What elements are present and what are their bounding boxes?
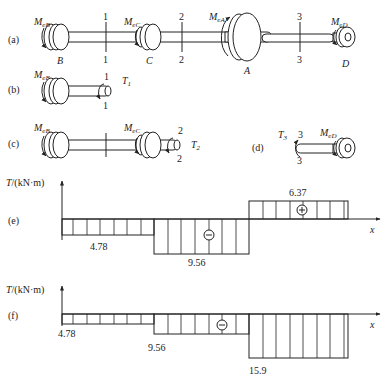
section-1-top-b: 1 <box>104 71 109 82</box>
moment-label-d: MeD <box>330 16 348 29</box>
x-axis-label-f: x <box>369 319 375 330</box>
panel-b: (b) MeB 1 1 T1 <box>8 69 131 111</box>
section-2-bottom-c: 2 <box>177 153 182 164</box>
moment-label-b: MeB <box>33 16 50 29</box>
panel-c-label: (c) <box>8 138 19 150</box>
section-3-bottom: 3 <box>297 54 302 65</box>
shaft-end-segment <box>262 34 334 42</box>
pulley-d <box>333 27 355 47</box>
section-2-top: 2 <box>179 11 184 22</box>
y-axis-label-f: T/(kN·m) <box>6 284 44 296</box>
moment-label-d-d: MeD <box>319 127 337 140</box>
value-label-e-1: 4.78 <box>90 241 108 252</box>
panel-e-label: (e) <box>8 215 19 227</box>
section-2-bottom: 2 <box>179 54 184 65</box>
value-label-f-3: 15.9 <box>249 365 267 376</box>
value-label-e-3: 6.37 <box>289 187 307 198</box>
chart-f: (f) T/(kN·m) x 4.78 9.56 15.9 <box>6 284 380 376</box>
node-label-a: A <box>243 65 251 76</box>
section-1-top: 1 <box>103 11 108 22</box>
panel-d: (d) T3 3 3 MeD <box>252 127 355 166</box>
moment-label-c: MeC <box>123 16 140 29</box>
panel-d-label: (d) <box>252 142 264 154</box>
torque-label-t1: T1 <box>122 75 131 88</box>
pulley-a <box>221 13 261 61</box>
value-label-f-1: 4.78 <box>58 328 76 339</box>
moment-label-c-c: MeC <box>123 122 140 135</box>
panel-a: (a) MeB B 1 1 MeC C 2 2 <box>8 11 355 76</box>
chart-e: (e) T/(kN·m) x 4.78 9.56 6.37 <box>6 177 380 268</box>
torque-label-t3: T3 <box>278 129 288 142</box>
bar-f-segment-1 <box>62 314 154 324</box>
torque-label-t2: T2 <box>191 139 201 152</box>
node-label-b: B <box>57 55 63 66</box>
section-1-bottom-b: 1 <box>103 100 108 111</box>
panel-f-label: (f) <box>8 310 18 322</box>
panel-a-label: (a) <box>8 34 19 46</box>
bar-e-segment-1 <box>62 219 154 235</box>
panel-b-label: (b) <box>8 84 20 96</box>
panel-c: (c) MeB MeC 2 2 T2 <box>8 122 201 164</box>
value-label-e-2: 9.56 <box>188 257 206 268</box>
section-2-top-c: 2 <box>178 125 183 136</box>
section-3-top: 3 <box>297 11 302 22</box>
bar-f-segment-3 <box>249 314 348 358</box>
node-label-c: C <box>146 55 153 66</box>
shaft-torque-diagram: (a) MeB B 1 1 MeC C 2 2 <box>0 0 388 388</box>
node-label-d: D <box>341 58 350 69</box>
value-label-f-2: 9.56 <box>148 342 166 353</box>
y-axis-label-e: T/(kN·m) <box>6 177 44 189</box>
moment-label-a: MeA <box>208 11 225 24</box>
x-axis-label-e: x <box>369 224 375 235</box>
section-1-bottom: 1 <box>103 54 108 65</box>
section-3-top-d: 3 <box>298 129 303 140</box>
